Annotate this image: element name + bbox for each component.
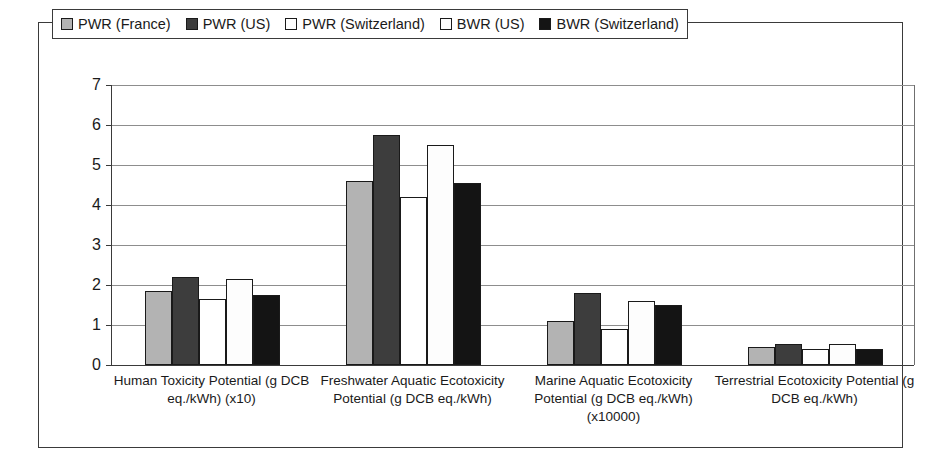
bar-4-series-3 <box>802 349 829 365</box>
y-axis-tick-label-2: 2 <box>92 277 101 293</box>
bar-4-series-2 <box>775 344 802 365</box>
bar-4-series-1 <box>748 347 775 365</box>
bar-group-3 <box>514 85 715 365</box>
y-axis-tick-label-6: 6 <box>92 117 101 133</box>
y-axis-tick-label-5: 5 <box>92 157 101 173</box>
bar-1-series-1 <box>145 291 172 365</box>
bar-2-series-3 <box>400 197 427 365</box>
category-axis-labels: Human Toxicity Potential (g DCB eq./kWh)… <box>111 372 915 447</box>
y-axis-tick-label-3: 3 <box>92 237 101 253</box>
bar-2-series-4 <box>427 145 454 365</box>
y-axis-tick-label-0: 0 <box>92 357 101 373</box>
gridline-y-0 <box>112 365 914 366</box>
bar-2-series-5 <box>454 183 481 365</box>
y-axis-tick-label-1: 1 <box>92 317 101 333</box>
plot-area: 01234567 <box>111 85 915 365</box>
bar-3-series-1 <box>547 321 574 365</box>
chart-legend: PWR (France)PWR (US)PWR (Switzerland)BWR… <box>52 9 688 39</box>
category-label-4: Terrestrial Ecotoxicity Potential (g DCB… <box>714 372 915 408</box>
legend-swatch-icon-2 <box>186 18 198 30</box>
legend-swatch-icon-3 <box>285 18 297 30</box>
category-label-2: Freshwater Aquatic Ecotoxicity Potential… <box>312 372 513 408</box>
bar-3-series-3 <box>601 329 628 365</box>
legend-entry-5[interactable]: BWR (Switzerland) <box>539 17 678 32</box>
bar-3-series-2 <box>574 293 601 365</box>
category-label-3: Marine Aquatic Ecotoxicity Potential (g … <box>513 372 714 425</box>
bar-3-series-4 <box>628 301 655 365</box>
bar-1-series-5 <box>253 295 280 365</box>
category-label-1: Human Toxicity Potential (g DCB eq./kWh)… <box>111 372 312 408</box>
legend-entry-2[interactable]: PWR (US) <box>186 17 271 32</box>
bar-2-series-2 <box>373 135 400 365</box>
legend-label-4: BWR (US) <box>457 17 525 32</box>
legend-label-5: BWR (Switzerland) <box>556 17 678 32</box>
bar-1-series-2 <box>172 277 199 365</box>
bar-group-1 <box>112 85 313 365</box>
legend-label-1: PWR (France) <box>78 17 171 32</box>
y-axis-tick-label-7: 7 <box>92 77 101 93</box>
bar-3-series-5 <box>655 305 682 365</box>
legend-entry-3[interactable]: PWR (Switzerland) <box>285 17 424 32</box>
bar-4-series-4 <box>829 344 856 365</box>
y-axis-tick-0 <box>106 365 112 366</box>
legend-label-2: PWR (US) <box>203 17 271 32</box>
bar-1-series-3 <box>199 299 226 365</box>
chart-figure-frame: 01234567 Human Toxicity Potential (g DCB… <box>38 22 903 448</box>
legend-swatch-icon-5 <box>539 18 551 30</box>
bar-2-series-1 <box>346 181 373 365</box>
bar-4-series-5 <box>856 349 883 365</box>
bar-1-series-4 <box>226 279 253 365</box>
legend-swatch-icon-4 <box>440 18 452 30</box>
legend-swatch-icon-1 <box>61 18 73 30</box>
legend-entry-4[interactable]: BWR (US) <box>440 17 525 32</box>
bar-group-4 <box>715 85 916 365</box>
legend-entry-1[interactable]: PWR (France) <box>61 17 171 32</box>
bar-group-2 <box>313 85 514 365</box>
y-axis-tick-label-4: 4 <box>92 197 101 213</box>
legend-label-3: PWR (Switzerland) <box>302 17 424 32</box>
